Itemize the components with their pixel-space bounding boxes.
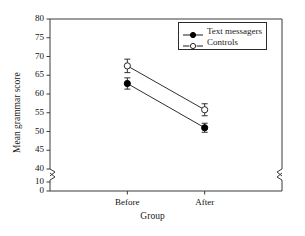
data-point-controls — [202, 107, 208, 113]
series-line-1 — [127, 66, 204, 110]
legend-item-controls: Controls — [182, 36, 262, 47]
y-tick-label: 60 — [14, 88, 44, 98]
legend: Text messagers Controls — [178, 22, 267, 50]
legend-swatch-filled-circle — [182, 26, 204, 36]
figure: Mean grammar score Group Text messagers … — [0, 0, 305, 236]
legend-label-text-messagers: Text messagers — [207, 26, 262, 36]
y-tick-label: 75 — [14, 32, 44, 42]
data-point-controls — [124, 63, 130, 69]
y-tick-label: 80 — [14, 13, 44, 23]
y-tick-label: 70 — [14, 51, 44, 61]
series-line-0 — [127, 84, 204, 128]
y-tick-label: 65 — [14, 69, 44, 79]
legend-item-text-messagers: Text messagers — [182, 25, 262, 36]
data-point-text-messagers — [124, 80, 130, 86]
x-tick-label: After — [165, 197, 245, 207]
x-axis-title: Group — [0, 211, 305, 221]
y-tick-label: 40 — [14, 163, 44, 173]
x-tick-label: Before — [87, 197, 167, 207]
y-tick-label: 50 — [14, 126, 44, 136]
y-tick-label: 45 — [14, 144, 44, 154]
legend-label-controls: Controls — [207, 37, 238, 47]
data-point-text-messagers — [202, 125, 208, 131]
legend-swatch-open-circle — [182, 37, 204, 47]
y-tick-label: 0 — [14, 185, 44, 195]
y-tick-label: 55 — [14, 107, 44, 117]
